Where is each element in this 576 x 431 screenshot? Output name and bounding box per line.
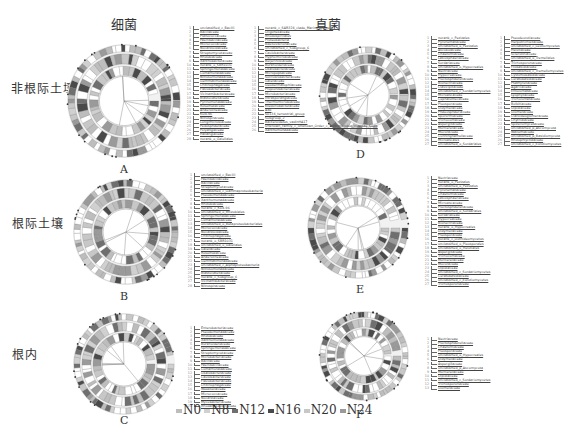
tree-branch-icon bbox=[194, 367, 200, 371]
panel-label-d: D bbox=[356, 148, 365, 161]
group-legend-item: N8 bbox=[204, 403, 229, 417]
tree-branch-icon bbox=[431, 205, 437, 209]
tree-branch-icon bbox=[431, 176, 437, 180]
group-legend: N0N8N12N16N20N24 bbox=[176, 403, 372, 417]
group-legend-label: N16 bbox=[275, 403, 301, 417]
tree-branch-icon bbox=[504, 81, 510, 85]
tree-branch-icon bbox=[194, 214, 200, 218]
tree-branch-icon bbox=[194, 177, 200, 181]
tree-branch-icon bbox=[504, 77, 510, 81]
color-swatch-icon bbox=[176, 409, 182, 413]
tree-branch-icon bbox=[193, 46, 199, 50]
tree-branch-icon bbox=[258, 67, 264, 71]
tree-branch-icon bbox=[431, 242, 437, 246]
tree-branch-icon bbox=[431, 138, 437, 142]
tree-branch-icon bbox=[431, 48, 437, 52]
tree-branch-icon bbox=[194, 185, 200, 189]
tree-branch-icon bbox=[194, 359, 200, 363]
tree-branch-icon bbox=[194, 247, 200, 251]
cladogram-a bbox=[66, 43, 182, 159]
tree-branch-icon bbox=[504, 142, 510, 146]
tree-branch-icon bbox=[258, 112, 264, 116]
tree-branch-icon bbox=[194, 173, 200, 177]
tree-branch-icon bbox=[431, 250, 437, 254]
tree-branch-icon bbox=[194, 338, 200, 342]
tree-branch-icon bbox=[431, 266, 437, 270]
tree-branch-icon bbox=[193, 51, 199, 55]
taxa-legend-d-col1: 1norank_c_Pezizales2Pyronemataceae3uncla… bbox=[420, 36, 490, 147]
tree-branch-icon bbox=[431, 184, 437, 188]
tree-branch-icon bbox=[194, 230, 200, 234]
tree-branch-icon bbox=[258, 120, 264, 124]
tree-branch-icon bbox=[431, 370, 437, 374]
tree-branch-icon bbox=[431, 225, 437, 229]
tree-branch-icon bbox=[194, 375, 200, 379]
legend-entry-taxon: Trichosporonaceae bbox=[438, 282, 469, 286]
color-swatch-icon bbox=[232, 409, 238, 413]
tree-branch-icon bbox=[431, 180, 437, 184]
tree-branch-icon bbox=[504, 138, 510, 142]
tree-branch-icon bbox=[431, 237, 437, 241]
tree-branch-icon bbox=[194, 251, 200, 255]
tree-branch-icon bbox=[193, 124, 199, 128]
tree-branch-icon bbox=[431, 102, 437, 106]
tree-branch-icon bbox=[431, 258, 437, 262]
tree-branch-icon bbox=[194, 243, 200, 247]
tree-branch-icon bbox=[504, 93, 510, 97]
tree-branch-icon bbox=[431, 262, 437, 266]
taxa-legend-f: 1Nectriaceae2Plectosphaerellaceae3Chaeto… bbox=[420, 337, 490, 390]
panel-label-c: C bbox=[120, 414, 128, 427]
taxa-legend-d-col2: 1Pseudeurotiaceae2Herpotrichiellaceae3un… bbox=[493, 36, 564, 147]
tree-branch-icon bbox=[504, 110, 510, 114]
taxa-legend-c: 1Enterobacteriaceae2Pseudomonadaceae3Rhi… bbox=[183, 326, 236, 408]
row-label-endosphere: 根内 bbox=[12, 345, 38, 362]
taxa-legend-b: 1unclassified_c_Bacilli2Paenibacillaceae… bbox=[183, 173, 263, 288]
tree-branch-icon bbox=[193, 128, 199, 132]
tree-branch-icon bbox=[193, 108, 199, 112]
cladogram-c bbox=[72, 312, 176, 416]
tree-branch-icon bbox=[504, 36, 510, 40]
legend-entry-index: 28 bbox=[183, 284, 192, 288]
tree-branch-icon bbox=[194, 371, 200, 375]
group-legend-item: N0 bbox=[176, 403, 201, 417]
tree-branch-icon bbox=[258, 71, 264, 75]
tree-branch-icon bbox=[193, 83, 199, 87]
color-swatch-icon bbox=[340, 409, 346, 413]
tree-branch-icon bbox=[431, 110, 437, 114]
tree-branch-icon bbox=[431, 278, 437, 282]
tree-branch-icon bbox=[504, 52, 510, 56]
tree-branch-icon bbox=[194, 342, 200, 346]
tree-branch-icon bbox=[504, 48, 510, 52]
tree-branch-icon bbox=[194, 383, 200, 387]
tree-branch-icon bbox=[193, 100, 199, 104]
tree-branch-icon bbox=[258, 124, 264, 128]
tree-branch-icon bbox=[431, 61, 437, 65]
tree-branch-icon bbox=[193, 59, 199, 63]
tree-branch-icon bbox=[431, 36, 437, 40]
tree-branch-icon bbox=[258, 34, 264, 38]
tree-branch-icon bbox=[431, 106, 437, 110]
tree-branch-icon bbox=[431, 52, 437, 56]
tree-branch-icon bbox=[194, 267, 200, 271]
tree-branch-icon bbox=[504, 130, 510, 134]
group-legend-label: N24 bbox=[347, 403, 373, 417]
tree-branch-icon bbox=[504, 85, 510, 89]
tree-branch-icon bbox=[431, 217, 437, 221]
tree-branch-icon bbox=[504, 102, 510, 106]
tree-branch-icon bbox=[258, 108, 264, 112]
tree-branch-icon bbox=[193, 67, 199, 71]
tree-branch-icon bbox=[431, 201, 437, 205]
tree-branch-icon bbox=[431, 65, 437, 69]
tree-branch-icon bbox=[193, 34, 199, 38]
tree-branch-icon bbox=[194, 255, 200, 259]
panel-label-a: A bbox=[120, 163, 128, 176]
tree-branch-icon bbox=[431, 130, 437, 134]
tree-branch-icon bbox=[431, 345, 437, 349]
tree-branch-icon bbox=[431, 122, 437, 126]
group-legend-item: N12 bbox=[232, 403, 265, 417]
tree-branch-icon bbox=[193, 75, 199, 79]
column-title-bacteria: 细菌 bbox=[111, 14, 137, 33]
tree-branch-icon bbox=[193, 137, 199, 141]
tree-branch-icon bbox=[431, 126, 437, 130]
row-label-rhizosphere: 根际土壤 bbox=[12, 214, 64, 231]
